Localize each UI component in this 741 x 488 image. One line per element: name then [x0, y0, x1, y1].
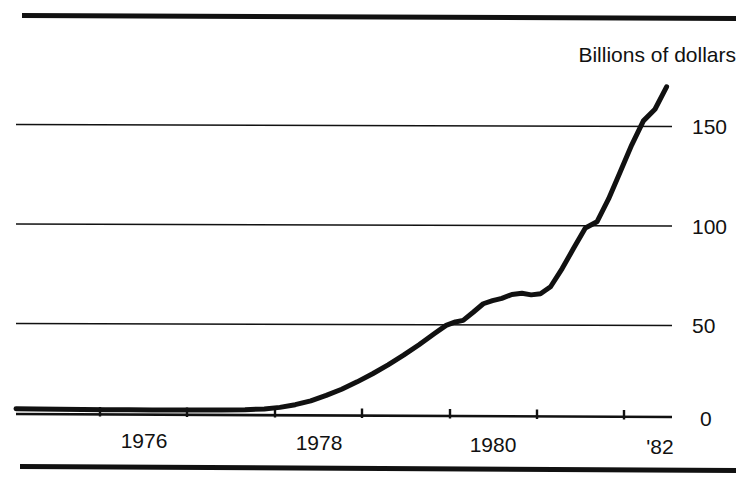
- x-axis-labels: 1976 1978 1980 '82: [121, 429, 674, 458]
- bottom-rule: [20, 467, 736, 471]
- x-tick-label-82: '82: [646, 435, 673, 458]
- unit-label: Billions of dollars: [578, 43, 736, 66]
- data-line-assets: [16, 87, 667, 410]
- y-tick-label-100: 100: [692, 215, 727, 238]
- line-chart: Billions of dollars 150 100 50 0 1: [0, 0, 741, 488]
- y-tick-label-0: 0: [700, 407, 712, 430]
- gridline-100: [16, 224, 672, 226]
- top-rule: [22, 16, 736, 19]
- chart-figure: Billions of dollars 150 100 50 0 1: [0, 0, 741, 488]
- gridline-150: [16, 125, 672, 127]
- gridline-50: [16, 324, 672, 326]
- y-tick-label-50: 50: [692, 314, 715, 337]
- x-tick-label-1980: 1980: [470, 433, 517, 456]
- x-tick-label-1976: 1976: [121, 429, 168, 452]
- gridline-0-baseline: [16, 414, 672, 417]
- gridlines: [16, 125, 672, 418]
- x-tick-label-1978: 1978: [296, 431, 343, 454]
- y-tick-label-150: 150: [692, 115, 727, 138]
- y-axis-labels: 150 100 50 0: [692, 115, 727, 430]
